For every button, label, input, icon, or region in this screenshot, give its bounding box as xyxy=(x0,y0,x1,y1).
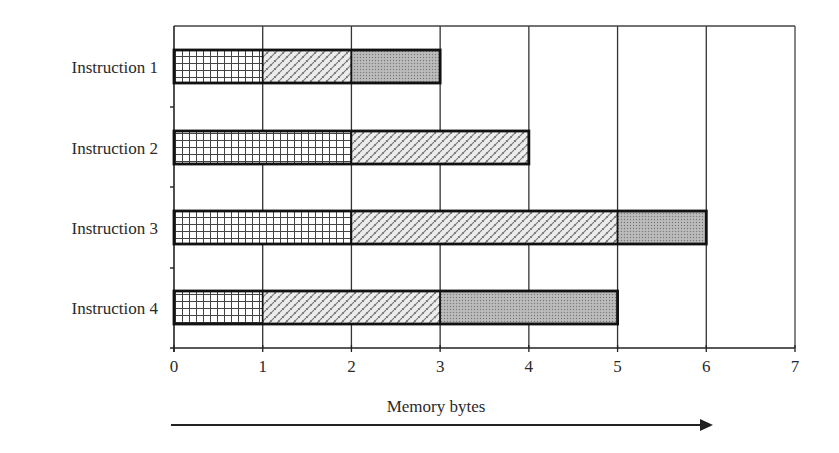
x-tick-label: 7 xyxy=(791,357,800,376)
bar-segment xyxy=(351,211,617,244)
x-axis-label: Memory bytes xyxy=(387,397,486,416)
x-tick-label: 3 xyxy=(436,357,445,376)
bar-segment xyxy=(174,291,263,324)
x-axis-tick-labels: 01234567 xyxy=(170,357,800,376)
bar-segment xyxy=(174,131,351,164)
bar-row xyxy=(174,131,529,164)
bar-segment xyxy=(618,211,707,244)
row-label: Instruction 2 xyxy=(72,139,158,158)
bar-row xyxy=(174,211,706,244)
row-label: Instruction 1 xyxy=(72,58,158,77)
x-tick-label: 1 xyxy=(258,357,267,376)
row-label: Instruction 3 xyxy=(72,219,158,238)
bar-segment xyxy=(174,211,351,244)
x-tick-label: 5 xyxy=(613,357,622,376)
bar-segment xyxy=(174,50,263,83)
y-axis-labels: Instruction 1Instruction 2Instruction 3I… xyxy=(72,58,159,318)
direction-arrow-icon xyxy=(171,419,713,431)
memory-layout-chart: Instruction 1Instruction 2Instruction 3I… xyxy=(0,0,839,453)
bar-segment xyxy=(351,131,528,164)
bar-segment xyxy=(351,50,440,83)
x-tick-label: 2 xyxy=(347,357,356,376)
bar-row xyxy=(174,291,618,324)
bar-segment xyxy=(263,50,352,83)
row-label: Instruction 4 xyxy=(72,299,159,318)
x-tick-label: 4 xyxy=(525,357,534,376)
bar-segment xyxy=(263,291,440,324)
x-tick-label: 6 xyxy=(702,357,711,376)
bar-segment xyxy=(440,291,617,324)
bar-row xyxy=(174,50,440,83)
x-tick-label: 0 xyxy=(170,357,179,376)
